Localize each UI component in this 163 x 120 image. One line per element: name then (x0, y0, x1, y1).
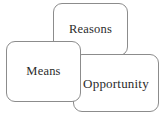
diagram-node-opportunity-label: Opportunity (83, 77, 149, 90)
diagram-node-means[interactable]: Means (6, 41, 81, 102)
diagram-node-opportunity[interactable]: Opportunity (73, 54, 159, 112)
diagram-canvas: Reasons Opportunity Means (0, 0, 163, 120)
diagram-node-means-label: Means (26, 65, 60, 78)
diagram-node-reasons-label: Reasons (69, 23, 112, 36)
